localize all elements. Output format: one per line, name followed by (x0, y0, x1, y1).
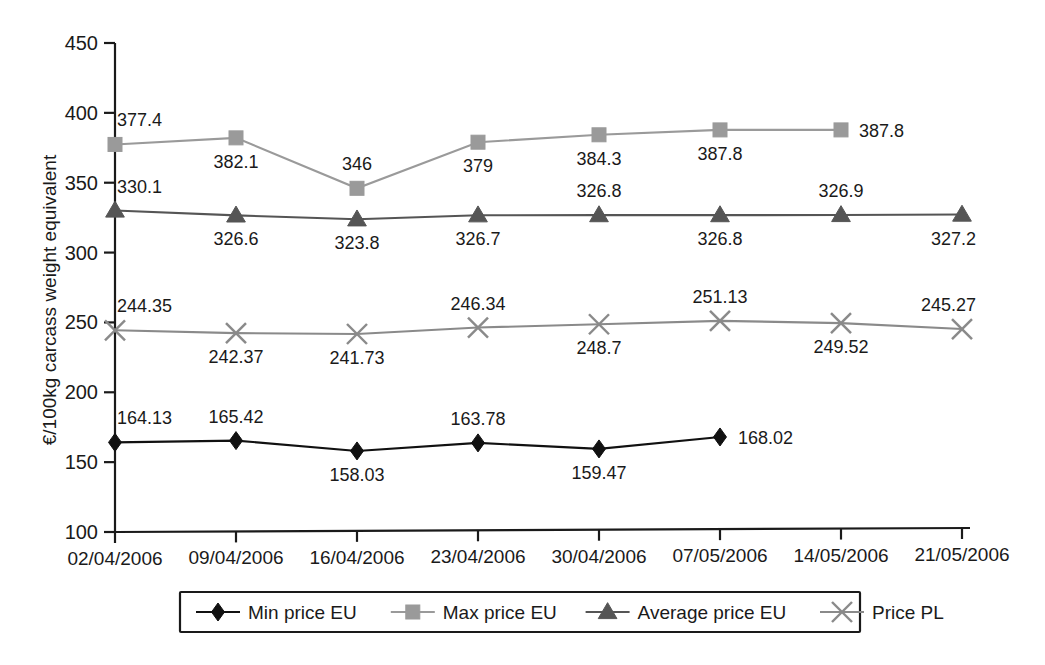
x-tick-label: 07/05/2006 (672, 545, 767, 566)
y-tick-label: 250 (65, 311, 98, 333)
data-point-triangle[interactable] (106, 201, 125, 217)
data-point-label: 249.52 (813, 337, 868, 357)
x-tick-label: 23/04/2006 (430, 546, 525, 567)
y-tick-label: 150 (65, 451, 98, 473)
data-point-label: 346 (342, 154, 372, 174)
data-point-diamond[interactable] (109, 433, 122, 451)
data-point-triangle[interactable] (711, 206, 730, 222)
data-point-label: 251.13 (692, 287, 747, 307)
data-point-label: 326.9 (818, 181, 863, 201)
data-point-label: 244.35 (117, 296, 172, 316)
legend-label: Price PL (872, 602, 944, 623)
chart-page: €/100kg carcass weight equivalent 100150… (0, 0, 1045, 665)
data-point-square[interactable] (350, 181, 364, 195)
data-point-label: 165.42 (208, 407, 263, 427)
data-point-square[interactable] (229, 131, 243, 145)
data-point-label: 377.4 (117, 110, 162, 130)
y-axis-title: €/100kg carcass weight equivalent (39, 154, 60, 445)
data-point-label: 158.03 (329, 465, 384, 485)
data-point-label: 248.7 (576, 338, 621, 358)
data-point-label: 323.8 (334, 233, 379, 253)
data-point-diamond[interactable] (472, 434, 485, 452)
data-point-square[interactable] (713, 123, 727, 137)
data-point-label: 164.13 (117, 408, 172, 428)
data-point-label: 379 (463, 156, 493, 176)
data-point-label: 387.8 (697, 144, 742, 164)
data-point-label: 326.7 (455, 229, 500, 249)
data-point-label: 384.3 (576, 149, 621, 169)
data-point-diamond[interactable] (230, 432, 243, 450)
data-point-triangle[interactable] (590, 206, 609, 222)
y-tick-label: 300 (65, 242, 98, 264)
data-point-square[interactable] (471, 135, 485, 149)
line-chart: €/100kg carcass weight equivalent 100150… (0, 0, 1045, 665)
data-point-label: 326.6 (213, 229, 258, 249)
x-tick-label: 30/04/2006 (551, 546, 646, 567)
data-point-label: 168.02 (738, 428, 793, 448)
legend-label: Min price EU (248, 602, 357, 623)
data-point-square[interactable] (592, 128, 606, 142)
data-point-diamond[interactable] (714, 428, 727, 446)
data-point-label: 245.27 (921, 295, 976, 315)
data-point-label: 159.47 (571, 463, 626, 483)
x-tick-label: 09/04/2006 (188, 547, 283, 568)
data-point-label: 326.8 (697, 229, 742, 249)
x-tick-label: 16/04/2006 (309, 547, 404, 568)
series-2 (106, 201, 972, 226)
y-tick-label: 450 (65, 32, 98, 54)
data-point-triangle[interactable] (469, 206, 488, 222)
data-point-diamond[interactable] (351, 442, 364, 460)
y-tick-label: 400 (65, 102, 98, 124)
legend-label: Max price EU (443, 602, 557, 623)
y-tick-label: 350 (65, 172, 98, 194)
data-point-label: 246.34 (450, 294, 505, 314)
series-line (115, 437, 720, 451)
data-point-label: 326.8 (576, 181, 621, 201)
series-0 (109, 428, 727, 460)
x-tick-label: 02/04/2006 (67, 548, 162, 569)
x-axis-ticks: 02/04/200609/04/200616/04/200623/04/2006… (67, 528, 1009, 569)
data-point-label: 163.78 (450, 409, 505, 429)
data-point-triangle[interactable] (227, 206, 246, 222)
x-tick-label: 21/05/2006 (914, 544, 1009, 565)
data-point-triangle[interactable] (953, 205, 972, 221)
data-point-label: 242.37 (208, 347, 263, 367)
y-tick-label: 100 (65, 521, 98, 543)
data-point-square[interactable] (108, 137, 122, 151)
data-point-triangle[interactable] (348, 210, 367, 226)
data-label-layer: 164.13165.42158.03163.78159.47168.02377.… (117, 110, 976, 484)
data-point-label: 330.1 (117, 177, 162, 197)
data-point-square[interactable] (834, 123, 848, 137)
x-tick-label: 14/05/2006 (793, 545, 888, 566)
data-point-label: 387.8 (859, 121, 904, 141)
data-point-triangle[interactable] (832, 206, 851, 222)
data-point-square[interactable] (406, 605, 420, 619)
data-point-diamond[interactable] (593, 440, 606, 458)
y-axis-title-text: €/100kg carcass weight equivalent (39, 154, 60, 445)
legend-label: Average price EU (638, 602, 787, 623)
data-point-label: 327.2 (931, 229, 976, 249)
y-tick-label: 200 (65, 381, 98, 403)
data-point-label: 241.73 (329, 348, 384, 368)
data-point-label: 382.1 (213, 152, 258, 172)
y-axis-ticks: 100150200250300350400450 (65, 32, 115, 543)
